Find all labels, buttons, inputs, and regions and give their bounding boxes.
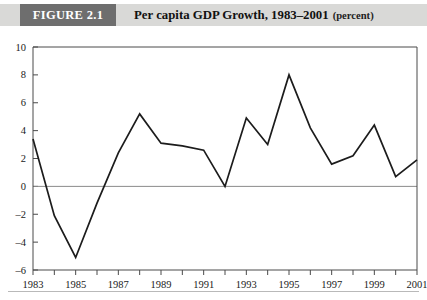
figure-caption-unit: (percent) (333, 10, 374, 21)
x-tick-label: 1993 (236, 279, 257, 290)
x-tick-label: 1985 (65, 279, 86, 290)
y-tick-label: 10 (16, 42, 27, 53)
y-tick-label: 6 (21, 97, 26, 108)
x-tick-label: 1987 (108, 279, 129, 290)
y-tick-label: 4 (21, 125, 27, 136)
figure-number-badge: FIGURE 2.1 (20, 4, 116, 26)
x-tick-label: 1995 (279, 279, 300, 290)
y-tick-label: –2 (15, 209, 27, 220)
y-tick-label: –4 (15, 237, 27, 248)
x-tick-label: 1997 (321, 279, 342, 290)
y-axis-tick-labels: –6–4–20246810 (15, 42, 27, 276)
bottom-rule (8, 291, 419, 292)
y-axis-tick-marks (33, 47, 38, 270)
x-tick-label: 1989 (151, 279, 172, 290)
y-tick-label: 8 (21, 69, 26, 80)
gdp-growth-line (33, 75, 417, 258)
x-axis-tick-marks (33, 270, 417, 275)
figure-caption-title: Per capita GDP Growth, 1983–2001 (134, 8, 329, 23)
line-chart: –6–4–20246810 19831985198719891991199319… (0, 26, 427, 300)
x-tick-label: 1999 (364, 279, 385, 290)
x-axis-tick-labels: 1983198519871989199119931995199719992001 (23, 279, 427, 290)
x-tick-label: 1991 (193, 279, 214, 290)
figure-header: FIGURE 2.1 Per capita GDP Growth, 1983–2… (0, 4, 427, 26)
plot-frame (33, 47, 417, 270)
x-tick-label: 1983 (23, 279, 44, 290)
figure-caption: Per capita GDP Growth, 1983–2001 (percen… (134, 4, 374, 26)
chart-region: –6–4–20246810 19831985198719891991199319… (0, 26, 427, 300)
x-tick-label: 2001 (407, 279, 427, 290)
y-tick-label: 2 (21, 153, 26, 164)
y-tick-label: 0 (21, 181, 26, 192)
y-tick-label: –6 (15, 265, 27, 276)
